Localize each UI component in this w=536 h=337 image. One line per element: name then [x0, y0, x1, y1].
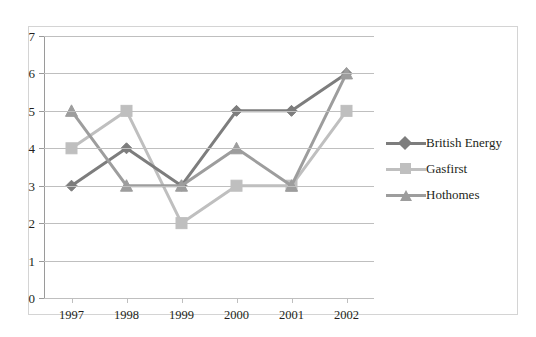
- y-tick-2: [39, 223, 44, 224]
- legend-label: Hothomes: [426, 187, 479, 203]
- legend-marker-square-icon: [386, 162, 426, 176]
- x-axis-label-1998: 1998: [114, 308, 139, 323]
- legend-symbol: [400, 163, 411, 174]
- y-axis-label-3: 3: [29, 179, 36, 192]
- x-axis-label-1999: 1999: [169, 308, 194, 323]
- y-tick-6: [39, 73, 44, 74]
- legend-symbol: [398, 136, 412, 150]
- gridline-y-0: [44, 298, 374, 299]
- y-axis-label-7: 7: [29, 30, 36, 43]
- legend-symbol: [400, 190, 412, 201]
- x-axis-label-2001: 2001: [279, 308, 304, 323]
- legend-label: Gasfirst: [426, 161, 467, 177]
- x-tick-1997: [72, 298, 73, 303]
- gridline-y-7: [44, 36, 374, 37]
- chart-screenshot: 01234567199719981999200020012002 British…: [0, 0, 536, 337]
- y-tick-3: [39, 186, 44, 187]
- y-axis-label-0: 0: [29, 292, 36, 305]
- legend-item-british-energy: British Energy: [386, 130, 526, 156]
- y-tick-5: [39, 111, 44, 112]
- gridline-y-4: [44, 148, 374, 149]
- x-axis-label-2002: 2002: [334, 308, 359, 323]
- chart-legend: British EnergyGasfirstHothomes: [386, 130, 526, 208]
- x-axis-label-1997: 1997: [59, 308, 84, 323]
- x-tick-2000: [237, 298, 238, 303]
- legend-item-hothomes: Hothomes: [386, 182, 526, 208]
- series-lines: [44, 36, 374, 298]
- clipped-title-text: [150, 0, 260, 7]
- x-tick-2002: [347, 298, 348, 303]
- gridline-y-1: [44, 261, 374, 262]
- y-axis-label-6: 6: [29, 67, 36, 80]
- y-axis-label-5: 5: [29, 104, 36, 117]
- gridline-y-5: [44, 111, 374, 112]
- y-tick-0: [39, 298, 44, 299]
- x-tick-1998: [127, 298, 128, 303]
- x-tick-1999: [182, 298, 183, 303]
- y-tick-7: [39, 36, 44, 37]
- gridline-y-2: [44, 223, 374, 224]
- y-axis-label-4: 4: [29, 142, 36, 155]
- plot-area: 01234567199719981999200020012002: [44, 36, 374, 298]
- gridline-y-6: [44, 73, 374, 74]
- y-tick-1: [39, 261, 44, 262]
- legend-label: British Energy: [426, 135, 502, 151]
- legend-marker-triangle-icon: [386, 188, 426, 202]
- y-axis-label-2: 2: [29, 217, 36, 230]
- y-tick-4: [39, 148, 44, 149]
- x-axis-label-2000: 2000: [224, 308, 249, 323]
- legend-item-gasfirst: Gasfirst: [386, 156, 526, 182]
- legend-marker-diamond-icon: [386, 136, 426, 150]
- x-tick-2001: [292, 298, 293, 303]
- gridline-y-3: [44, 186, 374, 187]
- y-axis-label-1: 1: [29, 254, 36, 267]
